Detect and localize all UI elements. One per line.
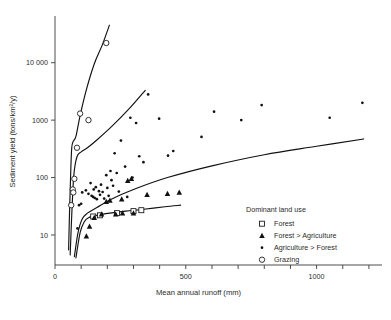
legend-label: Agriculture > Forest — [274, 243, 337, 252]
data-point — [135, 122, 138, 125]
data-point — [131, 176, 134, 179]
data-point — [138, 155, 141, 158]
data-point — [87, 193, 90, 196]
legend-item-grazing[interactable]: Grazing — [259, 255, 299, 264]
data-point — [117, 190, 120, 193]
data-point — [84, 233, 90, 238]
data-point — [80, 202, 83, 205]
x-tick-label: 0 — [53, 272, 57, 281]
x-tick-label: 500 — [180, 272, 192, 281]
data-point — [98, 190, 101, 193]
data-point — [120, 139, 123, 142]
data-point — [126, 196, 129, 199]
data-point — [328, 116, 331, 119]
data-point — [119, 196, 125, 201]
y-tick-label: 10 — [40, 231, 48, 240]
data-point — [147, 93, 150, 96]
legend-item-forest-agriculture[interactable]: Forest > Agriculture — [259, 231, 336, 240]
data-point — [139, 208, 144, 213]
data-point — [115, 172, 118, 175]
data-point — [105, 174, 108, 177]
data-point — [92, 188, 95, 191]
data-point — [100, 183, 103, 186]
data-point — [101, 191, 104, 194]
data-point — [86, 117, 91, 122]
series-forest — [91, 208, 144, 219]
x-axis-title: Mean annual runoff (mm) — [156, 288, 242, 297]
legend-marker-small-dot — [261, 246, 264, 249]
data-point — [124, 165, 127, 168]
legend-label: Forest — [274, 219, 294, 228]
data-point — [142, 161, 145, 164]
data-point — [96, 198, 99, 201]
data-point — [104, 40, 109, 45]
envelope-curves — [69, 25, 364, 258]
legend-marker-open-circle — [259, 257, 264, 262]
data-point — [260, 104, 263, 107]
data-point — [81, 191, 84, 194]
data-point — [74, 145, 79, 150]
y-axis-title: Sediment yield (tons/km²/y) — [8, 95, 17, 187]
data-point — [129, 116, 132, 119]
legend-title: Dominant land use — [246, 205, 306, 214]
data-point — [107, 197, 113, 202]
data-points — [69, 40, 364, 238]
data-point — [94, 186, 97, 189]
data-point — [167, 154, 170, 157]
data-point — [69, 202, 74, 207]
data-point — [99, 193, 102, 196]
data-point — [165, 191, 171, 196]
data-point — [200, 136, 203, 139]
data-point — [144, 192, 150, 197]
data-point — [109, 170, 112, 173]
legend-marker-open-square — [260, 221, 265, 226]
data-point — [71, 190, 76, 195]
legend-marker-filled-triangle — [259, 233, 265, 238]
legend-item-agriculture-forest[interactable]: Agriculture > Forest — [261, 243, 337, 252]
x-tick-label: 1000 — [309, 272, 325, 281]
envelope-curve-forest-envelope — [76, 205, 181, 258]
data-point — [87, 224, 93, 229]
data-point — [113, 152, 116, 155]
data-point — [361, 101, 364, 104]
data-point — [89, 182, 92, 185]
data-point — [110, 179, 113, 182]
legend-item-forest[interactable]: Forest — [260, 219, 295, 228]
data-point — [76, 227, 79, 230]
y-tick-label: 100 — [36, 173, 48, 182]
series-agriculture-forest — [76, 93, 364, 230]
data-point — [172, 150, 175, 153]
y-tick-label: 10 000 — [26, 58, 48, 67]
data-point — [106, 187, 109, 190]
chart-svg: 0500100010100100010 000Mean annual runof… — [0, 0, 391, 320]
data-point — [107, 194, 110, 197]
legend-label: Grazing — [274, 255, 299, 264]
data-point — [112, 184, 115, 187]
data-point — [213, 110, 216, 113]
chart-legend: Dominant land useForestForest > Agricult… — [246, 205, 337, 264]
data-point — [72, 176, 77, 181]
series-grazing — [69, 40, 109, 208]
data-point — [158, 117, 161, 120]
data-point — [85, 189, 88, 192]
chart-figure: 0500100010100100010 000Mean annual runof… — [0, 0, 391, 320]
y-tick-label: 1000 — [32, 116, 48, 125]
data-point — [103, 197, 106, 200]
data-point — [240, 119, 243, 122]
data-point — [77, 111, 82, 116]
data-point — [177, 189, 183, 194]
legend-label: Forest > Agriculture — [274, 231, 337, 240]
